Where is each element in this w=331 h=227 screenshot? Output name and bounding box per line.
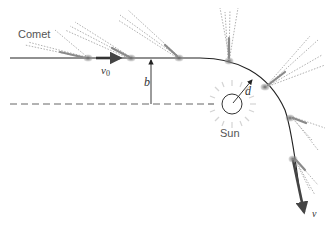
comet-head [175, 55, 184, 62]
comet-tails [25, 8, 325, 195]
final-velocity-label: v [312, 208, 317, 219]
comet-orbit-diagram: Comet Sun v0 b d v [0, 0, 331, 227]
trajectory-path [10, 58, 300, 195]
impact-parameter-label: b [144, 75, 150, 89]
comet-head [289, 156, 298, 163]
initial-velocity-label: v0 [101, 64, 110, 78]
comet-label: Comet [18, 28, 50, 40]
sun-label: Sun [220, 127, 240, 139]
comet-head [261, 84, 270, 91]
initial-velocity-subscript: 0 [106, 69, 110, 78]
comet-head [225, 58, 234, 65]
closest-approach-label: d [245, 84, 252, 98]
comet-heads [84, 55, 298, 163]
comet-head [286, 115, 295, 122]
comet-head [84, 55, 93, 62]
sun-disk [222, 94, 242, 114]
comet-head [127, 55, 136, 62]
